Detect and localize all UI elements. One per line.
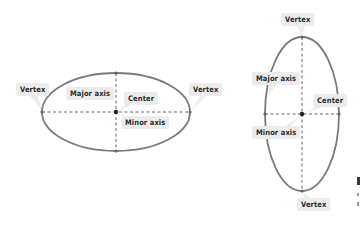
vertex-point <box>188 110 191 113</box>
vertex-point <box>300 189 303 192</box>
label-vertex-bottom: Vertex <box>297 198 330 211</box>
co-vertex-point <box>263 112 266 115</box>
vertex-point <box>300 35 303 38</box>
label-center: Center <box>124 92 158 105</box>
clipped-text-fragment <box>357 202 359 206</box>
label-center: Center <box>313 94 347 107</box>
ellipse-diagram: Vertex Major axis Center Minor axis Vert… <box>0 0 360 233</box>
label-major-axis: Major axis <box>66 87 114 100</box>
co-vertex-point <box>114 149 117 152</box>
co-vertex-point <box>337 112 340 115</box>
center-point <box>300 112 304 116</box>
vertical-ellipse <box>263 26 340 199</box>
label-minor-axis: Minor axis <box>252 126 300 139</box>
callout-tail <box>192 96 206 110</box>
vertex-point <box>40 110 43 113</box>
co-vertex-point <box>114 71 117 74</box>
callout-tail <box>30 96 42 110</box>
center-point <box>114 110 118 114</box>
label-vertex-right: Vertex <box>189 83 222 96</box>
callout-tail <box>268 85 276 96</box>
label-minor-axis: Minor axis <box>121 116 169 129</box>
horizontal-ellipse <box>30 71 206 152</box>
label-vertex-top: Vertex <box>281 13 314 26</box>
label-major-axis: Major axis <box>252 72 300 85</box>
clipped-text-fragment <box>357 193 359 196</box>
callout-tail <box>297 26 305 36</box>
label-vertex-left: Vertex <box>16 83 49 96</box>
callout-tail <box>304 107 322 113</box>
callout-tail <box>118 104 132 111</box>
